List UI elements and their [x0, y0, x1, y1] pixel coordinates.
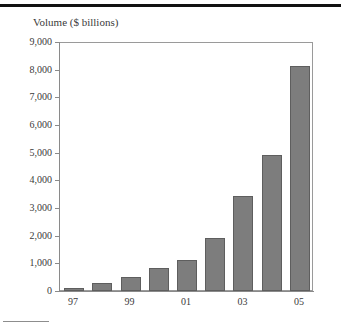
y-axis-tick-label: 9,000 — [30, 37, 53, 47]
y-axis-tick — [55, 291, 60, 292]
y-axis-tick-label: 4,000 — [30, 175, 53, 185]
bar — [149, 268, 169, 291]
y-axis-tick-label: 8,000 — [30, 65, 53, 75]
bar — [233, 196, 253, 291]
bar — [177, 260, 197, 291]
x-axis-tick-label: 03 — [229, 296, 255, 307]
x-axis-tick-label: 01 — [173, 296, 199, 307]
bar — [290, 66, 310, 291]
x-axis-tick-label: 97 — [60, 296, 86, 307]
y-axis-tick-label: 5,000 — [30, 148, 53, 158]
y-axis-tick-label: 6,000 — [30, 120, 53, 130]
bar — [121, 277, 141, 291]
x-axis-line — [59, 291, 314, 292]
x-axis-tick-label: 05 — [286, 296, 312, 307]
y-axis-tick-label: 3,000 — [30, 203, 53, 213]
y-axis-tick-label: 2,000 — [30, 231, 53, 241]
bar — [64, 288, 84, 291]
chart-page: Volume ($ billions) 01,0002,0003,0004,00… — [0, 0, 341, 333]
bar-series — [59, 42, 313, 291]
chart-title: Volume ($ billions) — [33, 16, 118, 29]
y-axis-tick-label: 0 — [47, 286, 52, 296]
top-divider-rule — [0, 4, 341, 7]
bar — [205, 238, 225, 291]
y-axis-tick-label: 7,000 — [30, 92, 53, 102]
x-axis-tick-label: 99 — [117, 296, 143, 307]
bar — [262, 155, 282, 291]
y-axis-tick-label: 1,000 — [30, 258, 53, 268]
bar — [92, 283, 112, 291]
footnote-divider-rule — [3, 321, 49, 322]
